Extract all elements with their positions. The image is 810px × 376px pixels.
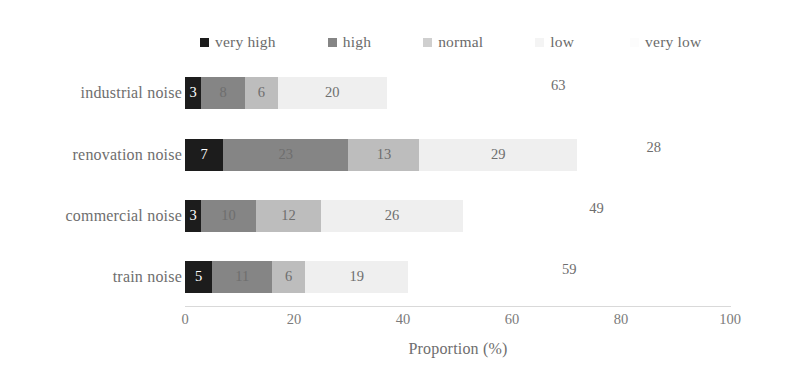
segment-value-label: 20 (325, 85, 340, 100)
plot-area: industrial noise3862063renovation noise7… (0, 62, 810, 307)
legend-swatch-very-high (200, 38, 209, 47)
legend-item-very-high: very high (200, 33, 276, 51)
legend-item-normal: normal (423, 33, 483, 51)
segment-value-label: 12 (281, 208, 296, 223)
legend-swatch-very-low (630, 38, 639, 47)
category-label: renovation noise (0, 146, 182, 164)
legend-swatch-high (328, 38, 337, 47)
x-tick-label: 20 (287, 311, 302, 328)
segment-value-label: 13 (377, 147, 392, 162)
bar-segment-normal[interactable]: 12 (256, 200, 321, 232)
legend-swatch-low (535, 38, 544, 47)
bar-segment-high[interactable]: 23 (223, 139, 348, 171)
segment-value-label: 63 (551, 77, 566, 94)
legend-label-high: high (343, 33, 371, 51)
segment-value-label: 29 (491, 147, 506, 162)
chart-row: commercial noise310122649 (0, 185, 810, 246)
stacked-bar[interactable]: 723132928 (185, 139, 730, 171)
segment-value-label: 7 (200, 147, 207, 162)
chart-row: train noise51161959 (0, 246, 810, 307)
stacked-bar[interactable]: 3862063 (185, 77, 730, 109)
x-axis-ticks: 020406080100 (0, 311, 810, 333)
segment-value-label: 26 (385, 208, 400, 223)
segment-value-label: 49 (589, 200, 604, 217)
bar-segment-low[interactable]: 26 (321, 200, 463, 232)
chart-legend: very high high normal low very low (186, 30, 746, 54)
x-tick-label: 60 (505, 311, 520, 328)
segment-value-label: 6 (285, 269, 292, 284)
legend-item-high: high (328, 33, 371, 51)
legend-label-very-high: very high (215, 33, 276, 51)
bar-segment-normal[interactable]: 6 (245, 77, 278, 109)
bar-segment-normal[interactable]: 6 (272, 261, 305, 293)
category-label: train noise (0, 268, 182, 286)
bar-segment-very-high[interactable]: 7 (185, 139, 223, 171)
chart-row: industrial noise3862063 (0, 62, 810, 123)
bar-segment-low[interactable]: 20 (278, 77, 387, 109)
bar-segment-high[interactable]: 10 (201, 200, 256, 232)
stacked-bar-chart: very high high normal low very low indus… (0, 0, 810, 376)
segment-value-label: 28 (646, 139, 661, 156)
segment-value-label: 23 (279, 147, 294, 162)
x-tick-label: 100 (719, 311, 741, 328)
stacked-bar[interactable]: 310122649 (185, 200, 730, 232)
segment-value-label: 3 (190, 85, 197, 100)
legend-label-low: low (550, 33, 574, 51)
legend-item-low: low (535, 33, 574, 51)
segment-value-label: 11 (235, 269, 249, 284)
bar-segment-low[interactable]: 29 (419, 139, 577, 171)
bar-segment-normal[interactable]: 13 (348, 139, 419, 171)
category-label: commercial noise (0, 207, 182, 225)
legend-label-normal: normal (438, 33, 483, 51)
segment-value-label: 3 (190, 208, 197, 223)
legend-label-very-low: very low (645, 33, 701, 51)
bar-segment-very-high[interactable]: 5 (185, 261, 212, 293)
bar-segment-very-high[interactable]: 3 (185, 200, 201, 232)
stacked-bar[interactable]: 51161959 (185, 261, 730, 293)
segment-value-label: 6 (258, 85, 265, 100)
segment-value-label: 5 (195, 269, 202, 284)
bar-segment-very-high[interactable]: 3 (185, 77, 201, 109)
segment-value-label: 59 (562, 261, 577, 278)
bar-segment-high[interactable]: 8 (201, 77, 245, 109)
segment-value-label: 19 (349, 269, 364, 284)
legend-item-very-low: very low (630, 33, 701, 51)
x-axis-line (185, 306, 731, 307)
legend-swatch-normal (423, 38, 432, 47)
x-axis-title: Proportion (%) (185, 340, 731, 358)
bar-segment-low[interactable]: 19 (305, 261, 409, 293)
segment-value-label: 10 (221, 208, 236, 223)
segment-value-label: 8 (220, 85, 227, 100)
category-label: industrial noise (0, 84, 182, 102)
x-tick-label: 0 (181, 311, 188, 328)
bar-segment-high[interactable]: 11 (212, 261, 272, 293)
x-tick-label: 40 (396, 311, 411, 328)
x-tick-label: 80 (614, 311, 629, 328)
chart-row: renovation noise723132928 (0, 124, 810, 185)
